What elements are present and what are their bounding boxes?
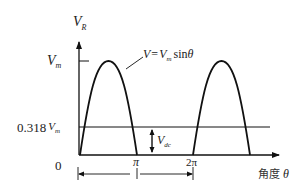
curve-equation-label: V=Vmsinθ	[143, 47, 194, 63]
curve-label-leader	[126, 57, 143, 69]
vdc-label: Vdc	[157, 133, 172, 149]
waveform-diagram: VR Vm 0.318Vm 0 π 2π Vdc V=Vmsinθ 角度θ	[0, 0, 306, 190]
zero-tick-label: 0	[55, 158, 62, 173]
y-axis-label: VR	[73, 14, 87, 32]
waveform-hump-2	[193, 61, 250, 155]
average-tick-label: 0.318Vm	[17, 120, 60, 135]
vm-tick-label: Vm	[47, 53, 62, 70]
waveform-hump-1	[80, 61, 137, 155]
two-pi-tick-label: 2π	[186, 156, 198, 168]
pi-tick-label: π	[133, 155, 140, 169]
x-axis-label: 角度θ	[258, 167, 289, 181]
